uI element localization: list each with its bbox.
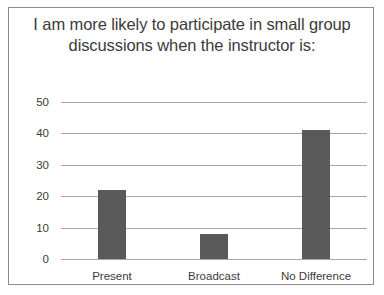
y-axis-tick-label: 0: [9, 253, 49, 265]
plot-area: 50403020100: [53, 94, 367, 267]
y-axis-tick-label: 30: [9, 159, 49, 171]
bar: [200, 234, 228, 259]
bar: [302, 130, 330, 259]
bar: [98, 190, 126, 259]
y-axis-tick-label: 40: [9, 127, 49, 139]
y-axis-tick-label: 50: [9, 96, 49, 108]
x-axis-category-label: No Difference: [265, 270, 367, 282]
x-axis-category-label: Present: [61, 270, 163, 282]
chart-title: I am more likely to participate in small…: [21, 14, 363, 56]
y-axis-tick-label: 20: [9, 190, 49, 202]
chart-container: I am more likely to participate in small…: [8, 7, 374, 285]
bar-series: [53, 94, 367, 267]
x-axis-labels: PresentBroadcastNo Difference: [61, 270, 367, 282]
x-axis-category-label: Broadcast: [163, 270, 265, 282]
y-axis-tick-label: 10: [9, 222, 49, 234]
